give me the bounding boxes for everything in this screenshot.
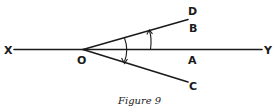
ray-oc [83,50,188,83]
angle-arc-aob [150,31,152,50]
label-y: Y [263,44,273,57]
label-x: X [4,44,13,57]
label-c: C [189,80,197,93]
label-o: O [77,54,86,67]
label-a: A [188,54,197,67]
angle-diagram: X Y O A D B C Figure 9 [0,0,277,108]
label-b: B [189,22,197,35]
figure-caption: Figure 9 [117,95,162,106]
ray-od [83,20,188,50]
label-d: D [188,5,197,18]
